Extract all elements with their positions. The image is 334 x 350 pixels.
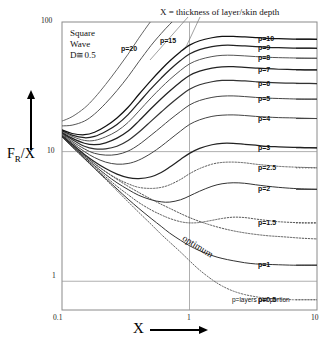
curve-label-p3: p=3 [258,144,270,151]
curve-label-p6: p=6 [258,80,270,87]
chart-root: 100 10 1 0.1 1 10 X = thickness of layer… [0,0,334,350]
x-tick-0.1: 0.1 [53,313,62,322]
curve-label-p2-5: p=2.5 [258,164,276,171]
curve-label-p2: p=2 [258,185,270,192]
curve-label-p5: p=5 [258,95,270,102]
x-tick-10: 10 [311,313,319,322]
y-tick-100: 100 [41,16,52,25]
x-tick-1: 1 [187,313,191,322]
x-axis-label: X [133,320,144,337]
curve-label-p0-5: p=0.5 [258,296,276,303]
curve-label-p10: p=10 [258,35,274,42]
y-tick-1: 1 [52,271,56,280]
curve-label-p1-5: p=1.5 [258,219,276,226]
y-axis-label: FR/X [7,146,35,164]
curve-label-p7: p=7 [258,66,270,73]
curve-label-p20: p=20 [121,45,137,52]
corner-note-line2: Wave [70,39,90,50]
chart-title: X = thickness of layer/skin depth [160,7,279,17]
curve-label-p4: p=4 [258,115,270,122]
corner-note-line1: Square [70,28,95,39]
curve-label-p8: p=8 [258,54,270,61]
curve-label-p15: p=15 [160,37,176,44]
y-tick-10: 10 [47,146,55,155]
corner-note-line3: D≅0.5 [70,50,96,61]
curve-label-p1: p=1 [258,261,270,268]
curve-label-p9: p=9 [258,44,270,51]
